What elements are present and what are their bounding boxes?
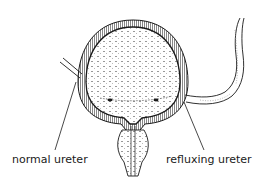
bladder-diagram: normal ureter refluxing ureter	[0, 0, 266, 181]
refluxing-ureter-label: refluxing ureter	[166, 153, 252, 166]
refluxing-ureter-leader	[184, 102, 204, 150]
left-ureteral-orifice	[108, 99, 113, 102]
bladder-lumen	[86, 27, 180, 124]
normal-ureter-leader	[55, 82, 76, 150]
urethra	[118, 130, 149, 176]
right-ureteral-orifice	[154, 99, 159, 102]
refluxing-ureter	[185, 18, 240, 97]
normal-ureter-label: normal ureter	[12, 153, 88, 166]
